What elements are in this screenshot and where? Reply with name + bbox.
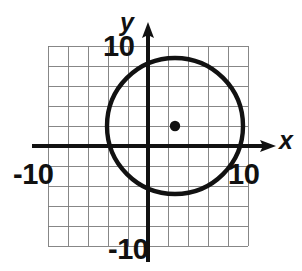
graph-figure: 10 -10 10 -10 y x: [0, 0, 302, 271]
x-axis-positive-tick-label: 10: [228, 160, 259, 189]
y-axis-label: y: [120, 10, 134, 35]
x-axis-negative-tick-label: -10: [13, 160, 53, 189]
y-axis-negative-tick-label: -10: [108, 235, 148, 264]
x-axis-label: x: [279, 128, 293, 153]
y-axis-positive-tick-label: 10: [103, 32, 134, 61]
coordinate-plane-svg: [0, 0, 302, 271]
circle-center-point: [170, 121, 180, 131]
